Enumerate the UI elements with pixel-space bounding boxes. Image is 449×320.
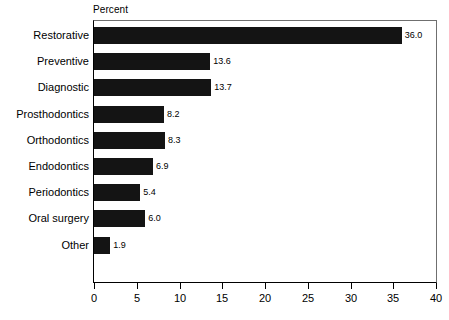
category-label: Other (61, 238, 89, 253)
bar (94, 53, 210, 70)
bar (94, 158, 153, 175)
bar (94, 210, 145, 227)
x-tick-label: 30 (345, 291, 357, 305)
x-tick-mark (137, 283, 138, 289)
category-label: Periodontics (28, 185, 89, 200)
bar-row: Other1.9 (0, 237, 449, 254)
x-tick-label: 35 (387, 291, 399, 305)
bar-value-label: 6.9 (156, 160, 169, 173)
category-label: Restorative (33, 28, 89, 43)
x-tick-mark (222, 283, 223, 289)
bar-value-label: 5.4 (143, 186, 156, 199)
bar-value-label: 8.3 (168, 134, 181, 147)
category-label: Preventive (37, 54, 89, 69)
bar-rows: Restorative36.0Preventive13.6Diagnostic1… (0, 20, 449, 283)
x-tick-mark (265, 283, 266, 289)
bar-value-label: 36.0 (405, 29, 423, 42)
x-axis-title: Percent (93, 4, 128, 16)
bar-chart: Percent Restorative36.0Preventive13.6Dia… (0, 0, 449, 320)
x-tick-label: 20 (259, 291, 271, 305)
x-tick-mark (94, 283, 95, 289)
bar (94, 79, 211, 96)
x-axis: 0510152025303540 (0, 283, 449, 313)
category-label: Oral surgery (28, 211, 89, 226)
x-tick-label: 40 (430, 291, 442, 305)
bar-row: Diagnostic13.7 (0, 79, 449, 96)
bar-row: Endodontics6.9 (0, 158, 449, 175)
bar (94, 27, 402, 44)
x-tick-mark (393, 283, 394, 289)
bar-value-label: 13.7 (214, 81, 232, 94)
bar (94, 106, 164, 123)
x-tick-label: 0 (91, 291, 97, 305)
category-label: Orthodontics (27, 133, 89, 148)
category-label: Prosthodontics (16, 107, 89, 122)
bar-value-label: 13.6 (213, 55, 231, 68)
bar (94, 237, 110, 254)
bar-row: Orthodontics8.3 (0, 132, 449, 149)
bar-row: Prosthodontics8.2 (0, 106, 449, 123)
x-tick-mark (180, 283, 181, 289)
bar (94, 132, 165, 149)
x-tick-label: 5 (134, 291, 140, 305)
bar-row: Preventive13.6 (0, 53, 449, 70)
bar-row: Restorative36.0 (0, 27, 449, 44)
x-tick-label: 25 (302, 291, 314, 305)
category-label: Diagnostic (38, 80, 89, 95)
x-tick-mark (436, 283, 437, 289)
bar-value-label: 1.9 (113, 239, 126, 252)
bar-value-label: 8.2 (167, 108, 180, 121)
category-label: Endodontics (28, 159, 89, 174)
x-tick-mark (351, 283, 352, 289)
x-tick-label: 10 (174, 291, 186, 305)
bar-row: Oral surgery6.0 (0, 210, 449, 227)
bar-value-label: 6.0 (148, 212, 161, 225)
bar (94, 184, 140, 201)
bar-row: Periodontics5.4 (0, 184, 449, 201)
x-tick-mark (308, 283, 309, 289)
x-tick-label: 15 (216, 291, 228, 305)
